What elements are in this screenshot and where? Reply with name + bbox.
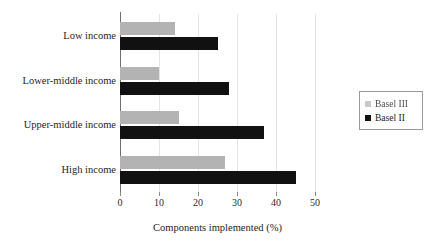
x-axis-title: Components implemented (%) — [120, 222, 315, 233]
category-axis: Low incomeLower-middle incomeUpper-middl… — [0, 14, 116, 192]
bar-group — [120, 103, 315, 148]
category-label: High income — [4, 164, 116, 175]
bar-basel-iii — [120, 156, 225, 169]
x-tick-mark — [159, 192, 160, 196]
x-tick-label: 0 — [118, 197, 123, 208]
x-tick-mark — [276, 192, 277, 196]
x-tick-label: 10 — [154, 197, 164, 208]
bar-basel-ii — [120, 37, 218, 50]
bar-basel-ii — [120, 171, 296, 184]
x-tick-mark — [198, 192, 199, 196]
bar-group — [120, 14, 315, 59]
x-tick-mark — [120, 192, 121, 196]
bar-basel-iii — [120, 22, 175, 35]
x-tick-label: 50 — [310, 197, 320, 208]
legend: Basel III Basel II — [359, 91, 423, 130]
x-tick-label: 20 — [193, 197, 203, 208]
x-tick-label: 40 — [271, 197, 281, 208]
legend-item-basel-iii: Basel III — [365, 97, 418, 110]
legend-item-basel-ii: Basel II — [365, 111, 418, 124]
bar-basel-iii — [120, 67, 159, 80]
bar-basel-iii — [120, 111, 179, 124]
plot-area — [120, 14, 315, 192]
category-label: Lower-middle income — [4, 75, 116, 86]
category-label: Low income — [4, 30, 116, 41]
legend-label-basel-ii: Basel II — [375, 113, 405, 123]
category-label: Upper-middle income — [4, 119, 116, 130]
legend-swatch-basel-iii — [365, 101, 371, 107]
bar-basel-ii — [120, 82, 229, 95]
x-tick-mark — [237, 192, 238, 196]
x-tick-mark — [315, 192, 316, 196]
x-tick-label: 30 — [232, 197, 242, 208]
gridline-50 — [315, 14, 316, 192]
legend-label-basel-iii: Basel III — [375, 99, 408, 109]
bar-basel-ii — [120, 126, 264, 139]
bar-chart: Low incomeLower-middle incomeUpper-middl… — [0, 0, 435, 248]
bar-group — [120, 148, 315, 193]
bar-group — [120, 59, 315, 104]
legend-swatch-basel-ii — [365, 115, 371, 121]
